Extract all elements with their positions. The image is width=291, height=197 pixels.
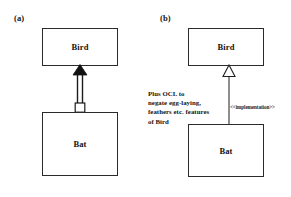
realization-arrow-a[interactable] [70, 64, 90, 114]
class-box-bird-b[interactable]: Bird [188, 28, 264, 66]
ocl-note-line-2: negate egg-laying, [148, 98, 222, 107]
uml-diagram-canvas: (a) Bird Bat (b) Bird <<implementation>>… [0, 0, 291, 197]
ocl-note-line-3: feathers etc. features [148, 107, 222, 116]
ocl-note-line-1: Plus OCL to [148, 89, 222, 98]
stereotype-label-implementation: <<implementation>> [230, 104, 275, 110]
class-name-label: Bat [73, 139, 86, 149]
panel-label-a: (a) [14, 13, 24, 23]
class-box-bat-a[interactable]: Bat [42, 112, 118, 176]
panel-label-b: (b) [160, 13, 171, 23]
class-box-bat-b[interactable]: Bat [188, 124, 264, 177]
generalization-arrow-b[interactable] [220, 64, 238, 126]
ocl-annotation-note: Plus OCL to negate egg-laying, feathers … [148, 89, 222, 126]
class-box-bird-a[interactable]: Bird [42, 28, 118, 66]
class-name-label: Bird [71, 42, 88, 52]
class-name-label: Bat [219, 146, 232, 156]
class-name-label: Bird [217, 42, 234, 52]
